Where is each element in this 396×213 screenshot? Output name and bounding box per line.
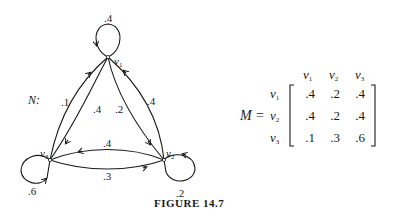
edge-label-v2-v3: .4 bbox=[103, 138, 111, 149]
edge-label-v3-v3: .6 bbox=[28, 186, 36, 197]
row-header-v3: v3 bbox=[270, 131, 279, 146]
markov-graph bbox=[0, 0, 396, 213]
edge-label-v3-v1: .1 bbox=[61, 97, 69, 108]
node-v3 bbox=[48, 158, 51, 161]
row-header-v2: v2 bbox=[270, 109, 279, 124]
matrix-cell-3-3: .6 bbox=[348, 131, 372, 144]
col-header-v1: v1 bbox=[303, 68, 312, 83]
matrix-cell-1-2: .2 bbox=[323, 87, 347, 100]
edge-v3-v2 bbox=[50, 160, 164, 169]
matrix-cell-3-2: .3 bbox=[323, 131, 347, 144]
edge-v2-v3 bbox=[50, 150, 164, 161]
matrix-cell-1-3: .4 bbox=[348, 87, 372, 100]
matrix-cell-1-1: .4 bbox=[298, 87, 322, 100]
edge-label-v1-v1: .4 bbox=[104, 13, 112, 24]
node-label-v2: v2 bbox=[166, 148, 174, 161]
edge-label-v1-v2: .2 bbox=[115, 104, 123, 115]
matrix-name: M bbox=[240, 109, 252, 123]
matrix-cell-2-2: .2 bbox=[323, 109, 347, 122]
col-header-v3: v3 bbox=[355, 68, 364, 83]
matrix-cell-2-3: .4 bbox=[348, 109, 372, 122]
matrix-cell-2-1: .4 bbox=[298, 109, 322, 122]
matrix-cell-3-1: .1 bbox=[298, 131, 322, 144]
graph-name-label: N: bbox=[28, 94, 40, 106]
edge-label-v3-v2: .3 bbox=[103, 171, 111, 182]
row-header-v1: v1 bbox=[270, 87, 279, 102]
node-v1 bbox=[106, 55, 109, 58]
edge-label-v2-v1: .4 bbox=[147, 96, 155, 107]
col-header-v2: v2 bbox=[329, 68, 338, 83]
edge-v1-v1 bbox=[96, 24, 120, 57]
node-label-v1: v1 bbox=[114, 56, 122, 69]
node-label-v3: v3 bbox=[40, 148, 48, 161]
edge-label-v1-v3: .4 bbox=[93, 104, 101, 115]
figure-caption: FIGURE 14.7 bbox=[154, 197, 224, 209]
matrix-equals: = bbox=[256, 109, 264, 123]
